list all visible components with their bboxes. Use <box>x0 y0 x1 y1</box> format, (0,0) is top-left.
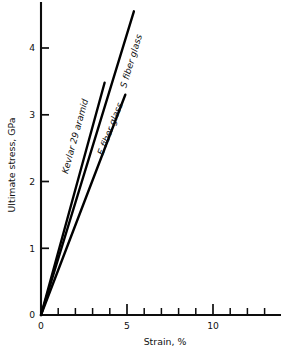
series-label-e-fiber-glass: E fiber glass <box>96 101 125 156</box>
stress-strain-chart: 0 1 2 3 4 0 5 10 <box>0 0 289 349</box>
y-tick-label-4: 4 <box>29 42 35 53</box>
y-tick-label-2: 2 <box>29 176 35 187</box>
series-label-kevlar-29-aramid: Kevlar 29 aramid <box>60 97 90 174</box>
y-axis-tick-labels: 0 1 2 3 4 <box>29 42 35 320</box>
x-tick-label-10: 10 <box>207 320 219 331</box>
series-labels-group: Kevlar 29 aramid E fiber glass S fiber g… <box>60 33 144 175</box>
chart-canvas: 0 1 2 3 4 0 5 10 <box>0 0 289 349</box>
x-axis-title: Strain, % <box>144 336 187 347</box>
y-tick-label-1: 1 <box>29 243 35 254</box>
x-tick-label-0: 0 <box>38 320 44 331</box>
y-tick-label-3: 3 <box>29 109 35 120</box>
y-axis-ticks <box>41 48 49 315</box>
data-series-group <box>41 11 134 315</box>
x-axis-ticks <box>58 304 264 315</box>
y-tick-label-0: 0 <box>29 309 35 320</box>
y-axis-title: Ultimate stress, GPa <box>6 118 17 213</box>
axes-group <box>40 2 281 316</box>
series-label-s-fiber-glass: S fiber glass <box>118 33 144 89</box>
series-line-s-fiber-glass <box>41 11 134 315</box>
x-axis-tick-labels: 0 5 10 <box>38 320 219 331</box>
x-tick-label-5: 5 <box>124 320 130 331</box>
